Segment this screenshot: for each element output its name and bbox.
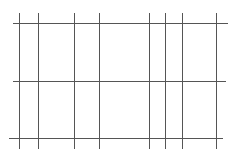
horizontal-line-1 <box>13 23 228 24</box>
vertical-line-2 <box>38 13 39 149</box>
horizontal-line-3 <box>9 138 223 139</box>
vertical-line-1 <box>19 13 20 149</box>
vertical-line-8 <box>216 13 217 149</box>
horizontal-line-2 <box>13 81 226 82</box>
vertical-line-5 <box>149 13 150 149</box>
vertical-line-3 <box>74 13 75 149</box>
vertical-line-4 <box>99 13 100 149</box>
vertical-line-7 <box>182 13 183 149</box>
vertical-line-6 <box>165 13 166 149</box>
